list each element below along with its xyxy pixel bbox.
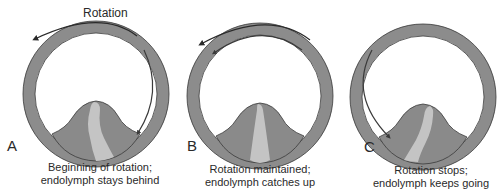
panel-b-caption: Rotation maintained; endolymph catches u…: [180, 163, 340, 189]
panel-b-canal: [187, 23, 333, 169]
panel-a-caption-line2: endolymph stays behind: [20, 174, 180, 187]
panel-a-label: A: [7, 137, 17, 154]
rotation-label: Rotation: [83, 6, 128, 20]
panel-b-caption-line2: endolymph catches up: [180, 176, 340, 189]
panel-a-caption: Beginning of rotation; endolymph stays b…: [20, 161, 180, 187]
panel-c-caption-line1: Rotation stops;: [351, 164, 499, 177]
panel-a-caption-line1: Beginning of rotation;: [20, 161, 180, 174]
panel-b-label: B: [187, 137, 197, 154]
panel-b-caption-line1: Rotation maintained;: [180, 163, 340, 176]
panel-a-canal: [23, 21, 169, 167]
panel-c-caption-line2: endolymph keeps going: [351, 177, 499, 190]
panel-c-caption: Rotation stops; endolymph keeps going: [351, 164, 499, 190]
panel-c-label: C: [364, 138, 375, 155]
